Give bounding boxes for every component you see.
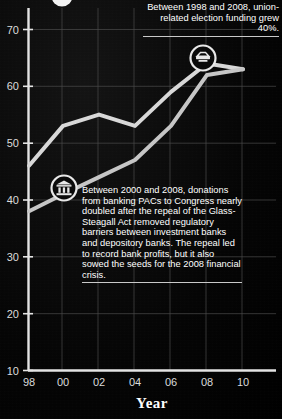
x-tick-label-00: 00 xyxy=(57,376,69,388)
y-tick-label-50: 50 xyxy=(7,137,19,149)
y-tick-label-40: 40 xyxy=(7,194,19,206)
y-tick-label-70: 70 xyxy=(7,24,19,36)
annotation-union-rule xyxy=(143,36,279,37)
annotation-bank: Between 2000 and 2008, donations from ba… xyxy=(82,185,242,283)
x-axis-title: Year xyxy=(136,395,168,411)
annotation-union: Between 1998 and 2008, union-related ele… xyxy=(143,2,279,37)
y-tick-label-10: 10 xyxy=(7,365,19,377)
x-tick-label-98: 98 xyxy=(23,376,35,388)
y-tick-label-30: 30 xyxy=(7,251,19,263)
x-tick-label-02: 02 xyxy=(93,376,105,388)
y-tick-label-60: 60 xyxy=(7,80,19,92)
x-tick-label-10: 10 xyxy=(237,376,249,388)
x-tick-label-06: 06 xyxy=(165,376,177,388)
annotation-bank-rule xyxy=(82,282,242,283)
x-tick-label-08: 08 xyxy=(201,376,213,388)
annotation-bank-text: Between 2000 and 2008, donations from ba… xyxy=(82,185,242,280)
bank-marker[interactable] xyxy=(52,176,77,201)
chart-container: 70 60 50 40 30 20 10 98 00 02 04 06 08 1… xyxy=(0,0,282,419)
annotation-union-text: Between 1998 and 2008, union-related ele… xyxy=(143,2,279,34)
top-cutoff-icon xyxy=(52,0,73,7)
union-marker[interactable] xyxy=(191,46,216,71)
x-tick-label-04: 04 xyxy=(129,376,141,388)
y-tick-label-20: 20 xyxy=(7,308,19,320)
series-union-line xyxy=(29,64,243,166)
